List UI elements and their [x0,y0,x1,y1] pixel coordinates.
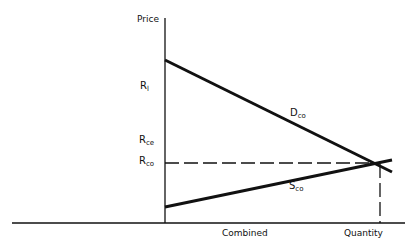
price-label-rce: Rce [139,134,154,147]
x-axis-label-quantity: Quantity [344,228,383,238]
demand-curve [165,60,392,172]
price-label-rco: Rco [139,155,154,168]
demand-label: Dco [290,107,306,120]
price-label-rl: Rl [140,80,149,93]
supply-curve [165,160,392,207]
y-axis-label: Price [137,14,159,24]
x-axis-label-combined: Combined [222,228,268,238]
supply-demand-diagram [0,0,417,252]
supply-label: Sco [289,180,304,193]
